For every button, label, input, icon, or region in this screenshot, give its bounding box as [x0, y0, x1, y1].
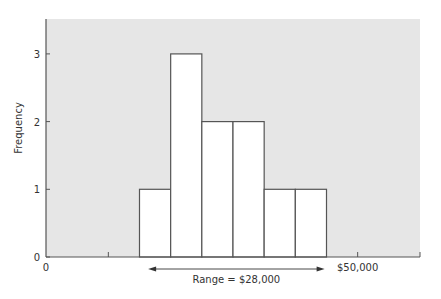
- x-tick-label: 0: [43, 262, 49, 273]
- histogram-bar: [202, 122, 233, 257]
- y-axis-title: Frequency: [13, 102, 24, 154]
- y-tick-label: 1: [34, 184, 40, 195]
- range-annotation: Range = $28,000: [148, 267, 325, 286]
- range-arrow-left-head: [148, 267, 156, 272]
- histogram-bar: [171, 54, 202, 257]
- histogram-bar: [140, 189, 171, 257]
- histogram-bar: [295, 189, 326, 257]
- y-tick-label: 2: [34, 117, 40, 128]
- x-tick-label: $50,000: [337, 262, 378, 273]
- histogram-bar: [233, 122, 264, 257]
- range-arrow-right-head: [317, 267, 325, 272]
- y-tick-label: 3: [34, 49, 40, 60]
- y-tick-label: 0: [34, 252, 40, 263]
- histogram-bar: [264, 189, 295, 257]
- range-label: Range = $28,000: [192, 274, 280, 285]
- histogram-chart: 0123 0$50,000 Frequency Range = $28,000: [0, 0, 441, 299]
